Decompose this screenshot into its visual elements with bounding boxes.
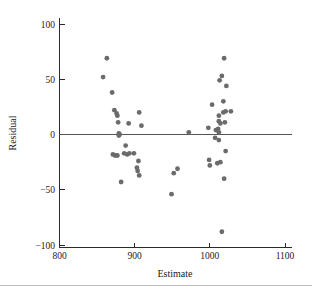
y-tick-label: 0 [50,130,55,140]
data-point [132,151,137,156]
y-tick-label: 50 [46,75,56,85]
data-point [127,151,132,156]
data-point [207,163,212,168]
data-point [216,130,221,135]
x-tick-label: 900 [128,251,143,261]
data-point [110,90,115,95]
data-point [219,229,224,234]
data-point [210,102,215,107]
data-point [101,75,106,80]
data-point [119,180,124,185]
data-point [175,166,180,171]
y-axis-title: Residual [7,115,18,150]
data-point [223,109,228,114]
data-point [115,113,120,118]
data-point [216,138,221,143]
data-point [186,130,191,135]
data-point [169,192,174,197]
data-point [117,132,122,137]
x-axis-title: Estimate [158,268,194,279]
data-point [104,56,109,61]
data-point [113,153,118,158]
axes-group [59,18,292,248]
data-point [224,83,229,88]
data-point [228,109,233,114]
data-point [216,113,221,118]
scatter-plot-figure: −100−50050100 80090010001100 Estimate Re… [0,0,312,286]
data-point [222,56,227,61]
data-point [221,99,226,104]
data-points-group [101,56,234,234]
data-point [206,125,211,130]
data-point [218,160,223,165]
data-point [223,149,228,154]
data-point [137,173,142,178]
data-point [218,121,223,126]
data-point [219,74,224,79]
data-point [136,159,141,164]
plot-canvas: −100−50050100 80090010001100 Estimate Re… [0,0,312,286]
data-point [139,123,144,128]
data-point [207,158,212,163]
data-point [137,110,142,115]
data-point [135,169,140,174]
y-tick-label: −100 [35,241,55,251]
data-point [217,78,222,83]
x-axis-ticks: 80090010001100 [52,243,294,262]
y-tick-label: 100 [41,20,56,30]
data-point [171,171,176,176]
x-tick-label: 800 [52,251,67,261]
x-tick-label: 1100 [276,251,295,261]
data-point [222,120,227,125]
y-tick-label: −50 [40,185,55,195]
data-point [126,121,131,126]
data-point [222,176,227,181]
x-tick-label: 1000 [200,251,219,261]
data-point [116,120,121,125]
data-point [123,143,128,148]
